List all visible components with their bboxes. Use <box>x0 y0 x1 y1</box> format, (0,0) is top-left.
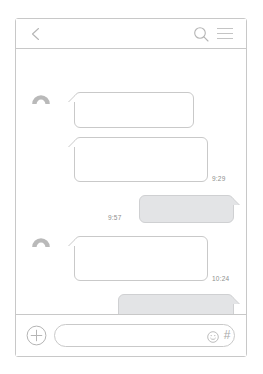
header-bar <box>16 19 246 49</box>
hashtag-button[interactable]: # <box>221 328 233 342</box>
message-timestamp: 9:29 <box>212 175 225 182</box>
bubble-tail-icon <box>232 297 239 304</box>
message-bubble-incoming[interactable] <box>74 236 208 281</box>
person-avatar-icon <box>30 85 52 107</box>
message-timestamp: 9:57 <box>108 214 121 221</box>
message-input-bar: # <box>16 314 246 356</box>
message-bubble-incoming[interactable] <box>74 92 194 128</box>
avatar <box>30 228 52 250</box>
hamburger-menu-icon <box>217 28 233 29</box>
bubble-tail-icon <box>69 239 76 246</box>
message-bubble-outgoing[interactable] <box>118 294 234 314</box>
add-attachment-button[interactable] <box>26 325 47 346</box>
message-bubble-incoming[interactable] <box>74 137 208 182</box>
smiley-face-icon <box>207 331 219 343</box>
emoji-button[interactable] <box>207 329 219 341</box>
plus-circle-icon <box>26 325 47 346</box>
bubble-tail-icon <box>69 140 76 147</box>
bubble-tail-icon <box>232 198 239 205</box>
message-bubble-outgoing[interactable] <box>139 195 234 223</box>
bubble-tail-icon <box>69 95 76 102</box>
menu-button[interactable] <box>217 28 233 41</box>
message-timestamp: 10:24 <box>212 275 229 282</box>
search-button[interactable] <box>193 26 210 43</box>
chevron-left-icon <box>28 26 44 42</box>
avatar <box>30 85 52 107</box>
hamburger-line <box>217 38 233 39</box>
hamburger-line <box>217 33 233 34</box>
person-avatar-icon <box>30 228 52 250</box>
conversation-area[interactable]: 9:29 9:57 10:24 10:43 <box>16 49 246 314</box>
back-button[interactable] <box>28 26 44 42</box>
search-icon <box>193 26 210 43</box>
phone-frame: 9:29 9:57 10:24 10:43 <box>15 18 247 357</box>
